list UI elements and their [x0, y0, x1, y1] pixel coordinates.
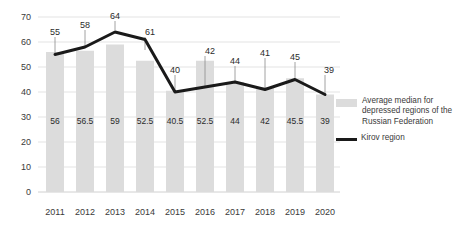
bar-label-2019: 45.5	[287, 116, 304, 126]
legend-line-label: Kirov region	[361, 133, 405, 143]
line-label-2019: 45	[290, 52, 300, 62]
bar-2017	[226, 82, 244, 192]
bar-label-2011: 56	[50, 116, 60, 126]
x-tick-2020: 2020	[315, 207, 335, 217]
x-tick-2011: 2011	[45, 207, 64, 217]
combo-chart: 70 60 50 40 30 20 10 0 56 56.5 59 52.5	[0, 0, 454, 240]
x-tick-2013: 2013	[105, 207, 125, 217]
chart-legend: Average median for depressed regions of …	[336, 96, 454, 150]
line-label-2013: 64	[110, 11, 120, 21]
bar-label-2015: 40.5	[167, 116, 184, 126]
y-tick-20: 20	[21, 137, 31, 147]
bar-2020	[316, 95, 334, 193]
legend-bar-label: Average median for depressed regions of …	[362, 96, 454, 127]
bar-label-2012: 56.5	[77, 116, 94, 126]
y-tick-0: 0	[26, 187, 31, 197]
line-label-2018: 41	[260, 48, 270, 58]
x-tick-2014: 2014	[135, 207, 155, 217]
line-label-2017: 44	[230, 56, 240, 66]
bar-label-2014: 52.5	[137, 116, 154, 126]
y-axis-tick-labels: 70 60 50 40 30 20 10 0	[21, 12, 31, 197]
legend-item-line-series[interactable]: Kirov region	[336, 133, 454, 143]
x-tick-2016: 2016	[195, 207, 215, 217]
y-tick-30: 30	[21, 112, 31, 122]
legend-line-swatch-icon	[336, 138, 357, 141]
line-series-kirov	[55, 32, 325, 95]
line-label-2016: 42	[205, 46, 215, 56]
bar-label-2017: 44	[230, 116, 240, 126]
line-label-2014: 61	[145, 27, 155, 37]
line-label-2020: 39	[324, 65, 334, 75]
bar-2019	[286, 78, 304, 192]
line-label-2015: 40	[170, 65, 180, 75]
x-tick-2019: 2019	[285, 207, 305, 217]
y-tick-70: 70	[21, 12, 31, 22]
bar-2018	[256, 87, 274, 192]
legend-bar-swatch-icon	[336, 99, 357, 107]
line-label-2011: 55	[50, 27, 60, 37]
bar-label-2018: 42	[260, 116, 270, 126]
x-tick-2015: 2015	[165, 207, 185, 217]
y-tick-10: 10	[21, 162, 31, 172]
line-label-2012: 58	[80, 20, 90, 30]
y-tick-60: 60	[21, 37, 31, 47]
legend-item-bar-series[interactable]: Average median for depressed regions of …	[336, 96, 454, 127]
x-axis-tick-labels: 2011 2012 2013 2014 2015 2016 2017 2018 …	[45, 207, 335, 217]
bar-2015	[166, 91, 184, 192]
y-tick-50: 50	[21, 62, 31, 72]
bar-label-2016: 52.5	[197, 116, 214, 126]
bar-2014	[136, 61, 154, 192]
x-tick-2018: 2018	[255, 207, 275, 217]
x-tick-2012: 2012	[75, 207, 95, 217]
bar-label-2013: 59	[110, 116, 120, 126]
bar-label-2020: 39	[320, 116, 330, 126]
y-tick-40: 40	[21, 87, 31, 97]
x-tick-2017: 2017	[225, 207, 245, 217]
